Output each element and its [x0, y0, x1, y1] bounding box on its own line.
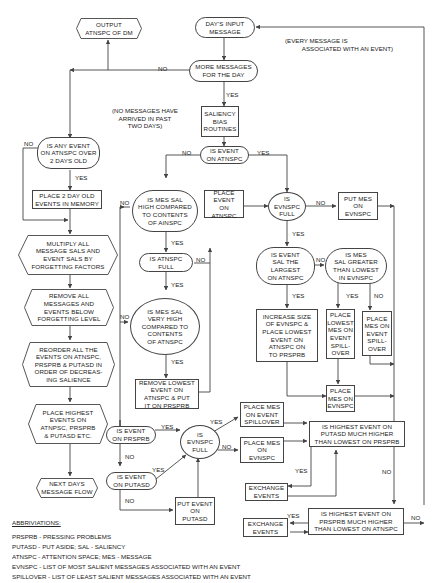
mes-sal-high-decision: IS MES SAL HIGH COMPARED TO CONTENTS OF … [132, 190, 198, 232]
no-label: NO [374, 292, 383, 300]
yes-label: YES [287, 512, 299, 520]
increase-evnspc-size-node: INCREASE SIZE OF EVNSPC & PLACE LOWEST E… [256, 309, 318, 362]
no-label: NO [182, 149, 191, 157]
every-message-note: (EVERY MESSAGE IS ASSOCIATED WITH AN EVE… [285, 37, 393, 52]
exchange-events-1-node: EXCHANGE EVENTS [245, 483, 288, 501]
no-label: NO [316, 256, 325, 264]
yes-label: YES [210, 418, 222, 426]
mes-sal-greater-decision: IS MES SAL GREATER THAN LOWEST IN EVNSPC [325, 248, 387, 284]
no-label: NO [24, 140, 33, 148]
abbreviations-title: ABBRIVIATIONS: [12, 518, 61, 527]
place-mes-on-event-spillover-node: PLACE MES ON EVENT SPILLOVER [240, 402, 284, 427]
place-mes-on-evnspc-node: PLACE MES ON EVNSPC [326, 385, 355, 412]
put-event-on-putasd-node: PUT EVENT ON PUTASD [175, 497, 215, 525]
event-sal-largest-decision: IS EVENT SAL THE LARGEST ON ATNSPC [256, 247, 315, 285]
place-event-on-atnspc-node: PLACE EVENT ON ATNSPC [204, 190, 244, 218]
place-mes-spillover-node: PLACE MES ON EVENT SPILL- OVER [362, 311, 392, 356]
more-messages-decision: MORE MESSAGES FOR THE DAY [189, 60, 258, 82]
no-label: NO [411, 514, 420, 522]
exchange-events-2-node: EXCHANGE EVENTS [243, 518, 288, 537]
yes-label: YES [257, 149, 269, 157]
is-atnspc-full-decision: IS ATNSPC FULL [139, 253, 193, 272]
is-evnspc-full-bottom-decision: IS EVNSPC FULL [180, 425, 220, 459]
abbreviation-item: PRSPRB - PRESSING PROBLEMS [12, 532, 111, 541]
no-label: NO [158, 65, 167, 73]
abbreviation-item: EVNSPC - LIST OF MOST SALIENT MESSAGES A… [12, 562, 240, 571]
no-label: NO [125, 453, 134, 461]
yes-label: YES [161, 423, 173, 431]
remove-below-forgetting-node: REMOVE ALL MESSAGES AND EVENTS BELOW FOR… [24, 289, 114, 326]
output-atnspc-node: OUTPUT ATNSPC OF DM [76, 18, 142, 39]
yes-label: YES [171, 239, 183, 247]
next-days-message-flow-node: NEXT DAYS MESSAGE FLOW [36, 478, 98, 498]
no-label: NO [120, 313, 129, 321]
place-lowest-mes-spillover-node: PLACE LOWEST MES ON EVENT SPILL- OVER [326, 309, 355, 359]
no-label: NO [120, 199, 129, 207]
is-event-on-prsprb-decision: IS EVENT ON PRSPRB [106, 426, 156, 444]
saliency-bias-routines-node: SALIENCY BIAS ROUTINES [201, 106, 239, 137]
yes-label: YES [292, 230, 304, 238]
place-mes-on-evnspc-bottom-node: PLACE MES ON EVNSPC [240, 437, 284, 463]
yes-label: YES [226, 91, 238, 99]
multiply-sals-node: MULTIPLY ALL MESSAGE SALS AND EVENT SALS… [18, 235, 118, 275]
abbreviation-item: PUTASD - PUT ASIDE; SAL - SALIENCY [12, 542, 125, 551]
days-input-message-node: DAY'S INPUT MESSAGE [195, 17, 255, 38]
remove-lowest-event-node: REMOVE LOWEST EVENT ON ATNSPC & PUT IT O… [135, 379, 199, 409]
yes-label: YES [346, 292, 358, 300]
abbreviation-item: ATNSPC - ATTENTION SPACE; MES - MESSAGE [12, 552, 152, 561]
no-label: NO [125, 497, 134, 505]
place-highest-events-node: PLACE HIGHEST EVENTS ON ATNPSC, PRSPRB &… [28, 404, 108, 444]
is-evnspc-full-decision: IS EVNSPC FULL [268, 192, 306, 221]
yes-label: YES [171, 358, 183, 366]
is-event-on-putasd-decision: IS EVENT ON PUTASD [106, 472, 157, 490]
yes-label: YES [292, 292, 304, 300]
yes-label: YES [75, 174, 87, 182]
no-label: NO [196, 256, 205, 264]
yes-label: YES [295, 467, 307, 475]
no-messages-note: (NO MESSAGES HAVE ARRIVED IN PAST TWO DA… [112, 107, 178, 130]
yes-label: YES [171, 281, 183, 289]
yes-label: YES [152, 466, 164, 474]
no-label: NO [316, 199, 325, 207]
place-2-day-old-events-node: PLACE 2 DAY OLD EVENTS IN MEMORY [32, 190, 102, 209]
is-event-on-atnspc-decision: IS EVENT ON ATNSPC [200, 146, 249, 164]
highest-putasd-vs-prsprb-decision: IS HIGHEST EVENT ON PUTASD MUCH HIGHER T… [309, 421, 405, 447]
no-label: NO [222, 443, 231, 451]
no-label: NO [382, 468, 391, 476]
put-mes-on-evnspc-node: PUT MES ON EVNSPC [338, 192, 378, 220]
reorder-events-node: REORDER ALL THE EVENTS ON ATNSPC, PRSPRB… [22, 342, 115, 387]
abbreviation-item: SPILLOVER - LIST OF LEAST SALIENT MESSAG… [12, 572, 251, 581]
mes-sal-very-high-decision: IS MES SAL VERY HIGH COMPARED TO CONTENT… [130, 298, 200, 355]
any-event-over-2-days-decision: IS ANY EVENT ON ATNSPC OVER 2 DAYS OLD [37, 137, 100, 169]
highest-prsprb-vs-atnspc-decision: IS HIGHEST EVENT ON PRSPRB MUCH HIGHER T… [308, 508, 404, 535]
